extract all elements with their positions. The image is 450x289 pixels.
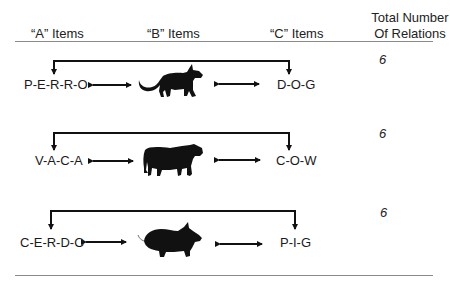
row-3-c-item: P-I-G [280,235,311,250]
row-1-a-item: P-E-R-R-O [24,77,88,92]
row-2-total: 6 [379,126,386,141]
row-1-total: 6 [379,52,386,67]
pig-icon [138,222,202,257]
row-3-total: 6 [380,205,387,220]
row-2-c-item: C-O-W [276,153,316,168]
row-2-a-item: V-A-C-A [35,153,83,168]
bottom-rule [15,275,433,276]
row-3-a-item: C-E-R-D-O [20,235,84,250]
dog-icon [139,64,203,97]
row-1-c-item: D-O-G [277,77,315,92]
cow-icon [143,144,203,176]
